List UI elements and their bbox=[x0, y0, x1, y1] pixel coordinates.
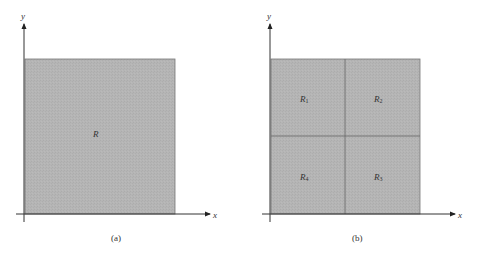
x-axis-label: x bbox=[212, 210, 217, 220]
caption-a: (a) bbox=[111, 233, 121, 243]
region-r-outer bbox=[271, 59, 420, 214]
panel-a: y x R (a) bbox=[16, 11, 217, 243]
x-axis-label: x bbox=[457, 210, 462, 220]
region-r bbox=[25, 59, 175, 214]
caption-b: (b) bbox=[352, 233, 363, 243]
panel-b: y x R1 R2 R4 R3 (b) bbox=[262, 11, 462, 243]
y-axis-label: y bbox=[266, 11, 271, 21]
region-label-r: R bbox=[92, 129, 99, 139]
y-axis-label: y bbox=[20, 11, 25, 21]
figure: y x R (a) y x R1 R2 R4 R3 (b) bbox=[0, 0, 480, 257]
